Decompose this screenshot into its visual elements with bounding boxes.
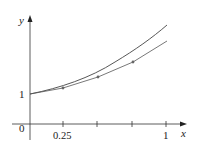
x-tick-label-025: 0.25	[53, 130, 71, 141]
y-axis-arrow-icon	[28, 15, 33, 22]
x-axis-label: x	[180, 127, 186, 139]
exact-curve	[30, 25, 167, 94]
marker-dot	[132, 61, 135, 64]
marker-dot	[62, 87, 65, 90]
x-tick-label-1: 1	[163, 129, 169, 141]
origin-label: 0	[19, 122, 25, 134]
x-axis-arrow-icon	[180, 122, 187, 127]
euler-polyline	[30, 41, 167, 94]
y-tick-label-1: 1	[19, 88, 25, 100]
euler-chart: y x 0 1 0.25 1	[0, 0, 197, 148]
marker-dot	[97, 76, 100, 79]
y-axis-label: y	[18, 14, 24, 26]
